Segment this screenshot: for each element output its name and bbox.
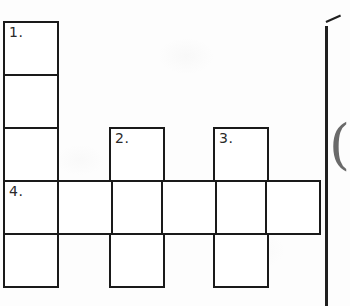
page-corner-tick-icon [326,15,342,24]
crossword-cell[interactable] [213,180,269,235]
crossword-cell[interactable] [57,180,113,235]
crossword-cell[interactable]: 1. [3,21,59,76]
crossword-cell-number: 1. [9,24,23,40]
crossword-cell-number: 2. [115,130,129,146]
margin-paren-glyph: ( [329,118,350,172]
crossword-cell[interactable]: 3. [213,127,269,182]
crossword-cell-number: 3. [219,130,233,146]
crossword-cell[interactable] [3,127,59,182]
page-edge-rule-icon [325,26,328,306]
crossword-cell-number: 4. [9,183,23,199]
crossword-cell[interactable] [109,233,165,288]
crossword-cell[interactable] [3,233,59,288]
crossword-cell[interactable] [3,74,59,129]
crossword-cell[interactable] [265,180,321,235]
crossword-cell[interactable]: 4. [3,180,59,235]
crossword-cell[interactable]: 2. [109,127,165,182]
crossword-cell[interactable] [213,233,269,288]
crossword-cell[interactable] [161,180,217,235]
crossword-cell[interactable] [109,180,165,235]
